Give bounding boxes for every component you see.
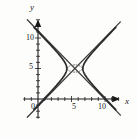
y-tick-label-10: 10	[26, 34, 34, 42]
y-tick-label-5: 5	[29, 63, 33, 71]
x-tick-label-10: 10	[98, 103, 106, 111]
x-axis-label: x	[125, 97, 129, 106]
hyperbola-figure: y x 10 5 5 10 0	[0, 0, 137, 139]
y-axis-label: y	[30, 3, 34, 12]
hyperbola-right-branch	[83, 27, 116, 109]
origin-label: 0	[31, 103, 35, 111]
x-tick-label-5: 5	[72, 103, 76, 111]
plot-canvas	[0, 0, 137, 139]
